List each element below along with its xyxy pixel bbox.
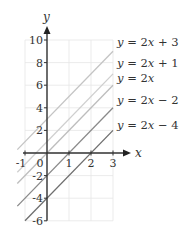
y-tick-label: 2 — [36, 124, 43, 137]
x-axis-arrow-icon — [123, 150, 131, 157]
x-tick-label: 0 — [37, 157, 44, 170]
legend-label: y = 2x + 1 — [116, 56, 179, 70]
x-tick-label: -1 — [16, 157, 27, 170]
y-tick-label: 10 — [29, 34, 43, 47]
y-tick-label: -4 — [32, 192, 43, 205]
y-tick-label: 6 — [36, 79, 43, 92]
x-tick-label: 2 — [88, 157, 95, 170]
y-tick-label: -2 — [32, 170, 43, 183]
x-tick-label: 3 — [110, 157, 117, 170]
y-axis-label: y — [42, 10, 50, 24]
chart: x y -10123-6-4-2246810 y = 2x + 3y = 2x … — [0, 0, 185, 244]
x-tick-label: 1 — [66, 157, 73, 170]
legend-label: y = 2x − 2 — [116, 93, 179, 107]
y-tick-label: 4 — [36, 102, 43, 115]
y-axis-arrow-icon — [44, 26, 51, 34]
legend-label: y = 2x + 3 — [116, 35, 179, 49]
legend-label: y = 2x — [116, 71, 155, 85]
y-tick-label: -6 — [32, 215, 43, 228]
legend: y = 2x + 3y = 2x + 1y = 2xy = 2x − 2y = … — [116, 35, 179, 132]
x-axis-label: x — [135, 146, 142, 160]
legend-label: y = 2x − 4 — [116, 118, 179, 132]
y-tick-label: 8 — [36, 57, 43, 70]
